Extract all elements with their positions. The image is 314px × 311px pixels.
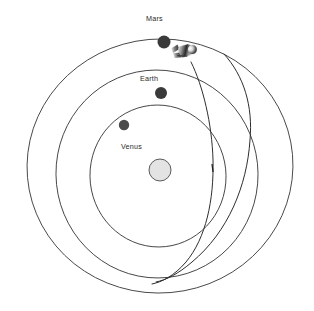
sun-body	[149, 159, 171, 181]
planet-earth	[155, 87, 167, 99]
planet-label-mars: Mars	[146, 14, 163, 23]
planet-venus	[119, 120, 129, 130]
orbital-diagram: Mars Earth Venus	[0, 0, 314, 311]
planet-label-earth: Earth	[140, 74, 158, 83]
orbit-canvas	[0, 0, 314, 311]
planet-label-venus: Venus	[121, 142, 142, 151]
